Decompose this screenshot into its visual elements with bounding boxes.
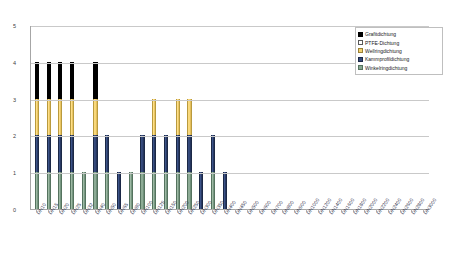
bar-column [281,26,285,209]
bar-column [82,26,86,209]
bar-segment-wellring [47,99,51,136]
bar-column [47,26,51,209]
legend-label: PTFE-Dichtung [365,40,399,46]
bar-segment-grafit [47,62,51,99]
x-axis-tick-labels: DN10DN15DN20DN25DN32DN40DN50DN65DN80DN10… [30,212,429,272]
y-tick-label: 2 [0,133,16,139]
bar-segment-kammprofil [164,135,168,172]
gridline [31,100,429,101]
bar-segment-winkelring [140,172,144,209]
bar-column [187,26,191,209]
bar-segment-winkelring [82,172,86,209]
bar-segment-winkelring [93,172,97,209]
gridline [31,173,429,174]
bar-segment-wellring [70,99,74,136]
bar-segment-winkelring [129,172,133,209]
bar-column [152,26,156,209]
bar-segment-wellring [152,99,156,136]
legend-swatch-winkelring-icon [358,65,363,70]
bar-segment-winkelring [35,172,39,209]
bar-column [140,26,144,209]
y-tick-label: 5 [0,23,16,29]
bar-column [58,26,62,209]
bar-column [211,26,215,209]
legend-label: Wellringdichtung [365,48,402,54]
bar-column [305,26,309,209]
bar-segment-grafit [58,62,62,99]
bar-segment-wellring [58,99,62,136]
bar-segment-kammprofil [140,135,144,172]
y-tick-label: 0 [0,207,16,213]
legend-swatch-kammprofil-icon [358,57,363,62]
bar-segment-kammprofil [35,135,39,172]
bar-segment-grafit [93,62,97,99]
bar-segment-kammprofil [176,135,180,172]
bar-column [164,26,168,209]
bar-column [269,26,273,209]
bar-column [105,26,109,209]
bar-column [316,26,320,209]
bar-segment-kammprofil [187,135,191,172]
legend-swatch-grafit-icon [358,32,363,37]
legend-item-grafit[interactable]: Grafitdichtung [358,30,440,38]
bar-segment-kammprofil [152,135,156,172]
bar-segment-kammprofil [211,135,215,172]
legend-item-ptfe[interactable]: PTFE-Dichtung [358,38,440,46]
chart-legend: GrafitdichtungPTFE-DichtungWellringdicht… [355,27,443,75]
bar-column [35,26,39,209]
bar-column [199,26,203,209]
bar-column [117,26,121,209]
bar-segment-wellring [176,99,180,136]
legend-item-winkelring[interactable]: Winkelringdichtung [358,64,440,72]
legend-item-kammprofil[interactable]: Kammprofildichtung [358,55,440,63]
bar-segment-wellring [187,99,191,136]
bar-column [176,26,180,209]
bar-column [328,26,332,209]
bar-segment-kammprofil [70,135,74,172]
bar-column [293,26,297,209]
legend-swatch-wellring-icon [358,48,363,53]
bar-column [246,26,250,209]
y-tick-label: 3 [0,97,16,103]
legend-label: Winkelringdichtung [365,65,407,71]
gridline [31,136,429,137]
bar-segment-kammprofil [93,135,97,172]
bar-segment-kammprofil [58,135,62,172]
bar-segment-kammprofil [117,172,121,209]
bar-column [70,26,74,209]
y-tick-label: 1 [0,170,16,176]
bar-segment-wellring [35,99,39,136]
bar-column [93,26,97,209]
legend-label: Grafitdichtung [365,31,396,37]
bar-segment-kammprofil [105,135,109,172]
bar-segment-wellring [93,99,97,136]
bar-column [129,26,133,209]
bar-segment-grafit [70,62,74,99]
bar-segment-winkelring [70,172,74,209]
bar-segment-grafit [35,62,39,99]
legend-label: Kammprofildichtung [365,56,409,62]
bar-segment-winkelring [47,172,51,209]
bar-column [340,26,344,209]
stacked-bar-chart: 012345 DN10DN15DN20DN25DN32DN40DN50DN65D… [0,0,449,275]
bar-column [223,26,227,209]
bar-segment-kammprofil [47,135,51,172]
legend-item-wellring[interactable]: Wellringdichtung [358,47,440,55]
legend-swatch-ptfe-icon [358,40,363,45]
bar-column [234,26,238,209]
bar-column [258,26,262,209]
y-tick-label: 4 [0,60,16,66]
